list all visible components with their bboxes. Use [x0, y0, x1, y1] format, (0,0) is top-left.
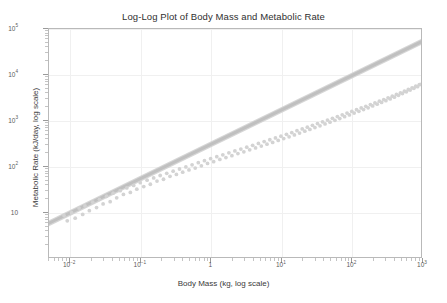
scatter-point	[333, 118, 337, 122]
y-tick-mark-minor	[45, 30, 48, 31]
data-layer	[49, 29, 421, 257]
y-tick-mark	[43, 74, 48, 75]
x-tick-mark-minor	[265, 258, 266, 261]
y-tick-mark-minor	[45, 184, 48, 185]
scatter-point	[108, 200, 112, 204]
scatter-point	[168, 174, 172, 178]
scatter-point	[366, 106, 370, 110]
x-tick-label: 102	[331, 261, 371, 268]
x-tick-mark-minor	[161, 258, 162, 261]
plot-area	[48, 28, 422, 258]
scatter-point	[236, 152, 240, 156]
scatter-point	[212, 160, 216, 164]
y-tick-mark-minor	[45, 60, 48, 61]
y-tick-mark-minor	[45, 222, 48, 223]
x-tick-mark-minor	[129, 258, 130, 261]
y-tick-mark-minor	[45, 190, 48, 191]
chart-figure: Log-Log Plot of Body Mass and Metabolic …	[0, 0, 447, 303]
scatter-point	[282, 137, 286, 141]
x-tick-mark-minor	[270, 258, 271, 261]
scatter-point	[293, 133, 297, 137]
scatter-point	[128, 191, 132, 195]
y-tick-mark-minor	[45, 214, 48, 215]
scatter-point	[262, 140, 266, 144]
scatter-point	[122, 193, 126, 197]
x-tick-mark-minor	[204, 258, 205, 261]
y-tick-mark-minor	[45, 219, 48, 220]
y-tick-mark	[43, 166, 48, 167]
scatter-point	[318, 124, 322, 128]
scatter-point	[187, 168, 191, 172]
x-axis-title: Body Mass (kg, log scale)	[0, 279, 447, 288]
y-tick-mark	[43, 212, 48, 213]
x-tick-mark-minor	[207, 258, 208, 261]
x-tick-label: 1	[190, 261, 230, 268]
x-tick-mark-minor	[411, 258, 412, 261]
scatter-point	[83, 204, 87, 208]
y-tick-mark-minor	[45, 168, 48, 169]
y-tick-mark	[43, 120, 48, 121]
y-tick-mark-minor	[45, 125, 48, 126]
scatter-point	[73, 216, 77, 220]
scatter-point	[371, 104, 375, 108]
chart-title: Log-Log Plot of Body Mass and Metabolic …	[0, 11, 447, 22]
scatter-point	[209, 157, 213, 161]
scatter-point	[196, 161, 200, 165]
scatter-point	[343, 115, 347, 119]
scatter-point	[118, 189, 122, 193]
x-tick-mark-minor	[253, 258, 254, 261]
scatter-point	[259, 144, 263, 148]
scatter-point	[91, 200, 95, 204]
x-tick-mark-minor	[302, 258, 303, 261]
y-axis-title: Metabolic Rate (kJ/day, log scale)	[31, 33, 40, 263]
x-tick-mark-minor	[323, 258, 324, 261]
x-tick-mark-minor	[330, 258, 331, 261]
y-tick-mark-minor	[45, 38, 48, 39]
x-tick-mark-minor	[315, 258, 316, 261]
scatter-point	[233, 149, 237, 153]
scatter-point	[152, 176, 156, 180]
y-tick-label: 102	[0, 163, 18, 170]
y-tick-mark-minor	[45, 244, 48, 245]
x-tick-mark-minor	[244, 258, 245, 261]
x-tick-mark-minor	[336, 258, 337, 261]
y-tick-mark-minor	[45, 152, 48, 153]
x-tick-mark-minor	[62, 258, 63, 261]
scatter-point	[338, 117, 342, 121]
y-tick-mark-minor	[45, 230, 48, 231]
scatter-point	[184, 165, 188, 169]
y-tick-mark-minor	[45, 176, 48, 177]
x-tick-mark-minor	[103, 258, 104, 261]
scatter-point	[227, 151, 231, 155]
x-tick-mark-minor	[124, 258, 125, 261]
scatter-point	[178, 167, 182, 171]
x-tick-mark-minor	[274, 258, 275, 261]
y-tick-label: 105	[0, 25, 18, 32]
y-tick-mark	[43, 28, 48, 29]
scatter-point	[171, 169, 175, 173]
y-tick-label: 103	[0, 117, 18, 124]
scatter-point	[224, 156, 228, 160]
scatter-point	[230, 154, 234, 158]
scatter-point	[155, 179, 159, 183]
x-tick-mark-minor	[174, 258, 175, 261]
scatter-point	[111, 191, 115, 195]
y-tick-mark-minor	[45, 173, 48, 174]
scatter-point	[125, 186, 129, 190]
y-tick-mark-minor	[45, 138, 48, 139]
y-tick-mark-minor	[45, 42, 48, 43]
x-tick-mark-minor	[341, 258, 342, 261]
x-tick-mark-minor	[66, 258, 67, 261]
scatter-point	[298, 131, 302, 135]
x-tick-mark-minor	[278, 258, 279, 261]
scatter-point	[215, 155, 219, 159]
x-tick-mark-minor	[373, 258, 374, 261]
scatter-point	[221, 153, 225, 157]
y-tick-mark-minor	[45, 217, 48, 218]
x-tick-mark-minor	[119, 258, 120, 261]
x-tick-mark-minor	[54, 258, 55, 261]
y-tick-mark-minor	[45, 79, 48, 80]
scatter-point	[95, 206, 99, 210]
scatter-point	[308, 128, 312, 132]
x-tick-mark-minor	[348, 258, 349, 261]
